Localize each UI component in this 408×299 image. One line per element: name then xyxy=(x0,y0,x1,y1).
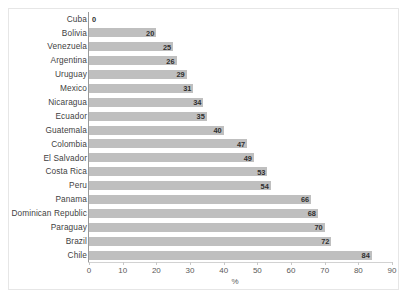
category-label: Argentina xyxy=(51,56,87,65)
category-label: Ecuador xyxy=(55,112,87,121)
bar-value-label: 20 xyxy=(142,29,154,38)
x-axis-tick-mark xyxy=(89,262,90,265)
bar xyxy=(89,195,311,204)
x-axis-tick-mark xyxy=(224,262,225,265)
category-label: Venezuela xyxy=(47,42,87,51)
category-label: Brazil xyxy=(66,237,87,246)
x-axis-tick-label: 40 xyxy=(212,266,236,276)
bar-chart-plot-area: % Cuba0Bolivia20Venezuela25Argentina26Ur… xyxy=(0,0,408,299)
category-label: Mexico xyxy=(60,84,87,93)
bar-value-label: 40 xyxy=(210,126,222,135)
x-axis-tick-label: 30 xyxy=(178,266,202,276)
category-label: Chile xyxy=(68,251,87,260)
x-axis-tick-label: 60 xyxy=(279,266,303,276)
x-axis-tick-label: 90 xyxy=(380,266,404,276)
x-axis-tick-mark xyxy=(392,262,393,265)
x-axis-tick-label: 80 xyxy=(346,266,370,276)
bar-value-label: 25 xyxy=(159,43,171,52)
bar-value-label: 35 xyxy=(193,112,205,121)
bar-value-label: 54 xyxy=(257,182,269,191)
category-label: Colombia xyxy=(51,140,87,149)
category-label: Paraguay xyxy=(51,223,87,232)
category-label: Uruguay xyxy=(55,70,87,79)
category-axis-line xyxy=(88,262,393,263)
bar-value-label: 70 xyxy=(311,223,323,232)
x-axis-tick-mark xyxy=(291,262,292,265)
bar-value-label: 53 xyxy=(253,168,265,177)
bar xyxy=(89,139,247,148)
bar xyxy=(89,237,331,246)
bar-value-label: 84 xyxy=(358,251,370,260)
bar xyxy=(89,223,325,232)
category-label: Dominican Republic xyxy=(11,209,87,218)
bar xyxy=(89,84,193,93)
bar-value-label: 72 xyxy=(317,237,329,246)
bar-value-label: 49 xyxy=(240,154,252,163)
category-label: Costa Rica xyxy=(45,167,87,176)
bar-value-label: 66 xyxy=(297,195,309,204)
x-axis-tick-label: 70 xyxy=(313,266,337,276)
x-axis-tick-mark xyxy=(358,262,359,265)
x-axis-tick-mark xyxy=(257,262,258,265)
x-axis-tick-mark xyxy=(325,262,326,265)
x-axis-tick-mark xyxy=(156,262,157,265)
bar-value-label: 29 xyxy=(173,70,185,79)
x-axis-title: % xyxy=(215,277,255,286)
bar-value-label: 34 xyxy=(189,98,201,107)
x-axis-tick-label: 10 xyxy=(111,266,135,276)
bar xyxy=(89,251,372,260)
bar xyxy=(89,112,207,121)
category-label: Guatemala xyxy=(46,126,88,135)
x-axis-tick-mark xyxy=(123,262,124,265)
category-label: Nicaragua xyxy=(48,98,87,107)
x-axis-tick-label: 0 xyxy=(77,266,101,276)
bar-value-label: 31 xyxy=(179,84,191,93)
bar xyxy=(89,98,203,107)
bar xyxy=(89,126,224,135)
category-label: Cuba xyxy=(67,15,87,24)
x-axis-tick-label: 20 xyxy=(144,266,168,276)
bar-value-label: 68 xyxy=(304,209,316,218)
category-label: El Salvador xyxy=(43,154,87,163)
bar-value-label: 47 xyxy=(233,140,245,149)
category-label: Peru xyxy=(69,181,87,190)
category-label: Bolivia xyxy=(62,29,87,38)
x-axis-tick-mark xyxy=(190,262,191,265)
x-axis-tick-label: 50 xyxy=(245,266,269,276)
bar xyxy=(89,209,318,218)
bar-value-label: 26 xyxy=(163,57,175,66)
bar xyxy=(89,153,254,162)
bar-value-label: 0 xyxy=(92,15,96,24)
bar xyxy=(89,167,267,176)
category-label: Panama xyxy=(55,195,87,204)
bar xyxy=(89,181,271,190)
